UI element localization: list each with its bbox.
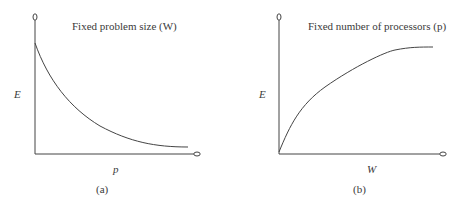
panel-b-curve [279,47,433,152]
panel-a-y-arrow-icon [33,14,37,20]
panel-a-y-label: E [14,88,21,100]
panel-b-x-label: W [367,163,376,175]
panel-b-y-label: E [259,88,266,100]
panel-b-caption: (b) [353,183,366,195]
panel-a-title: Fixed problem size (W) [72,20,177,32]
panel-a-x-arrow-icon [194,152,200,156]
panel-a-curve [35,43,188,147]
panel-a-x-label: p [113,163,119,175]
panel-b-y-arrow-icon [277,14,281,20]
panel-a-caption: (a) [96,183,108,195]
panel-b-x-arrow-icon [440,152,446,156]
panel-b-title: Fixed number of processors (p) [308,20,446,32]
